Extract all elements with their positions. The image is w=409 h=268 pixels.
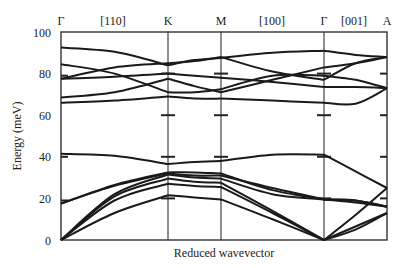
y-axis-label: Energy (meV) bbox=[10, 102, 24, 171]
symmetry-point-label: Γ bbox=[321, 14, 328, 28]
plot-area bbox=[61, 32, 387, 240]
dispersion-branch bbox=[324, 51, 387, 57]
dispersion-branch bbox=[61, 154, 168, 164]
symmetry-point-label: K bbox=[164, 14, 173, 28]
symmetry-point-label: Γ bbox=[58, 14, 65, 28]
dispersion-branch bbox=[61, 195, 168, 240]
x-axis-label: Reduced wavevector bbox=[174, 246, 274, 260]
dispersion-branch bbox=[168, 74, 221, 78]
dispersion-branch bbox=[324, 88, 387, 104]
phonon-dispersion-chart: Γ[110]KM[100]Γ[001]A 020406080100 Energy… bbox=[0, 0, 409, 268]
dispersion-branch bbox=[324, 87, 387, 88]
y-tick-label: 60 bbox=[39, 109, 51, 123]
y-tick-label: 0 bbox=[45, 234, 51, 248]
dispersion-branch bbox=[168, 161, 221, 164]
top-labels: Γ[110]KM[100]Γ[001]A bbox=[58, 14, 392, 28]
dispersion-branch bbox=[324, 155, 387, 188]
y-tick-label: 100 bbox=[33, 26, 51, 40]
dispersion-branch bbox=[61, 79, 168, 98]
dispersion-branch bbox=[324, 213, 387, 240]
dispersion-branch bbox=[221, 99, 324, 103]
symmetry-point-label: [001] bbox=[341, 14, 367, 28]
dispersion-branch bbox=[168, 184, 221, 187]
symmetry-point-label: M bbox=[216, 14, 227, 28]
dispersion-branch bbox=[61, 48, 168, 66]
y-axis: 020406080100 bbox=[33, 26, 51, 248]
y-tick-label: 20 bbox=[39, 192, 51, 206]
dispersion-branch bbox=[221, 51, 324, 58]
symmetry-point-label: [100] bbox=[259, 14, 285, 28]
dispersion-branch bbox=[324, 188, 387, 240]
symmetry-point-label: A bbox=[383, 14, 392, 28]
dispersion-branch bbox=[168, 195, 221, 199]
dispersion-branch bbox=[168, 97, 221, 99]
symmetry-point-label: [110] bbox=[100, 14, 126, 28]
plot-frame bbox=[61, 32, 387, 240]
y-tick-label: 80 bbox=[39, 67, 51, 81]
dispersion-branch bbox=[168, 172, 221, 173]
dispersion-branch bbox=[221, 154, 324, 161]
y-tick-label: 40 bbox=[39, 150, 51, 164]
dispersion-branch bbox=[221, 199, 324, 240]
dispersion-branch bbox=[168, 89, 221, 92]
dispersion-branch bbox=[61, 97, 168, 103]
dispersion-branch bbox=[221, 183, 324, 240]
